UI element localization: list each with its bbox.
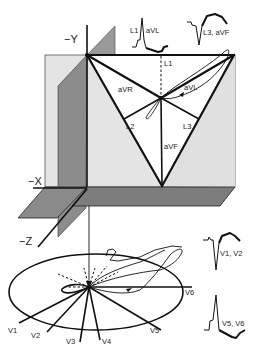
- label-avr: aVR: [118, 85, 133, 94]
- waveform-label-v1-v2: V1, V2: [220, 249, 243, 258]
- label-neg-y: −Y: [64, 33, 78, 45]
- horizontal-t-loop: [89, 250, 165, 287]
- label-v6: V6: [185, 288, 194, 297]
- horizontal-outer-contour: [106, 246, 182, 261]
- label-l3: L3: [183, 122, 191, 131]
- lead-v1-line: [19, 287, 89, 323]
- vectorcardiogram-diagram: L1 aVR aVL L2 L3 aVF −Y −X −Z L1 aVL L3,…: [0, 0, 258, 353]
- sagittal-plane-upper: [87, 26, 115, 55]
- waveform-label-l1-avl-b: aVL: [146, 26, 159, 35]
- waveform-l3-avf-st: [202, 14, 227, 26]
- horizontal-shelf-plane: [72, 187, 235, 206]
- label-avl: aVL: [184, 83, 197, 92]
- label-l2: L2: [126, 122, 134, 131]
- label-v3: V3: [66, 337, 75, 346]
- waveform-v1-v2-st: [219, 233, 240, 243]
- label-avf: aVF: [164, 142, 178, 151]
- horizontal-loop-arrow: [126, 288, 132, 292]
- label-neg-x: −X: [28, 175, 42, 187]
- waveform-label-v5-v6: V5, V6: [222, 319, 245, 328]
- waveform-l3-avf: [187, 22, 202, 45]
- label-v4: V4: [102, 337, 111, 346]
- label-v1: V1: [8, 326, 17, 335]
- waveform-label-l3-avf: L3, aVF: [203, 28, 230, 37]
- waveform-v1-v2: [203, 237, 219, 270]
- label-neg-z: −Z: [19, 235, 32, 247]
- lead-v5-line: [89, 287, 161, 330]
- lead-avf-line: [161, 98, 162, 186]
- waveform-l1-avl-st: [146, 46, 168, 52]
- waveform-v5-v6: [204, 295, 219, 330]
- lead-v4-line: [89, 287, 100, 340]
- label-v5: V5: [150, 326, 159, 335]
- label-v2: V2: [31, 331, 40, 340]
- origin-point: [85, 53, 89, 57]
- waveform-v5-v6-st: [219, 330, 245, 338]
- label-l1: L1: [164, 59, 172, 68]
- horizontal-center-point: [87, 285, 91, 289]
- waveform-label-l1-avl-a: L1: [130, 26, 138, 35]
